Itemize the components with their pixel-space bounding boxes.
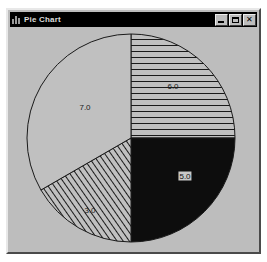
- pie-slices: [27, 34, 235, 242]
- minimize-button[interactable]: [215, 14, 228, 26]
- close-icon: ✕: [244, 15, 255, 25]
- minimize-icon: [218, 21, 224, 23]
- pie-slice-label: 3.0: [84, 206, 95, 215]
- pie-slice-label: 7.0: [79, 103, 90, 112]
- close-button[interactable]: ✕: [243, 14, 256, 26]
- pie-chart-window: Pie Chart ✕: [6, 8, 261, 254]
- chart-icon: [12, 15, 21, 24]
- window-titlebar[interactable]: Pie Chart ✕: [10, 12, 257, 27]
- window-client-area: 6.05.03.07.0: [10, 28, 257, 250]
- window-title: Pie Chart: [24, 15, 214, 24]
- pie-chart: 6.05.03.07.0: [10, 28, 257, 250]
- pie-slice: [131, 34, 235, 138]
- pie-chart-svg: [10, 28, 257, 250]
- maximize-icon: [232, 17, 239, 23]
- screenshot-canvas: Pie Chart ✕: [0, 0, 267, 262]
- pie-slice-label: 5.0: [178, 172, 191, 181]
- maximize-button[interactable]: [229, 14, 242, 26]
- pie-slice: [131, 138, 235, 242]
- pie-slice-label: 6.0: [167, 82, 178, 91]
